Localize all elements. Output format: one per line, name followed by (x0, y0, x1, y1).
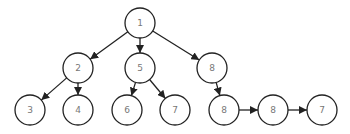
edge-n1-n8a (153, 31, 200, 60)
tree-node-n8c: 8 (258, 95, 288, 125)
node-label: 8 (209, 63, 215, 73)
tree-node-n6: 6 (112, 95, 142, 125)
tree-node-n2: 2 (63, 53, 93, 83)
tree-node-n1: 1 (125, 8, 155, 38)
tree-node-n8a: 8 (197, 53, 227, 83)
node-label: 3 (27, 105, 33, 115)
tree-node-n7a: 7 (160, 95, 190, 125)
node-label: 8 (270, 105, 276, 115)
edge-n2-n3 (41, 78, 66, 100)
node-label: 4 (75, 105, 81, 115)
node-label: 6 (124, 105, 130, 115)
edge-n5-n7a (150, 80, 166, 99)
node-label: 2 (75, 63, 81, 73)
node-label: 5 (137, 63, 143, 73)
node-label: 7 (319, 105, 325, 115)
tree-diagram: 12583467887 (0, 0, 350, 134)
tree-node-n7b: 7 (307, 95, 337, 125)
node-label: 8 (221, 105, 227, 115)
tree-node-n3: 3 (15, 95, 45, 125)
edge-n8a-n8b (216, 82, 220, 95)
node-label: 1 (137, 18, 143, 28)
tree-node-n8b: 8 (209, 95, 239, 125)
tree-node-n5: 5 (125, 53, 155, 83)
node-label: 7 (172, 105, 178, 115)
tree-node-n4: 4 (63, 95, 93, 125)
edge-n5-n6 (131, 82, 135, 95)
edge-n1-n2 (90, 32, 128, 59)
nodes-layer: 12583467887 (15, 8, 337, 125)
